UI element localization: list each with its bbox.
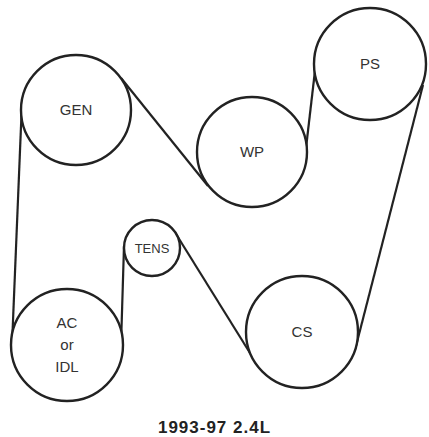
pulley-label: AC — [57, 314, 78, 331]
pulley-wp: WP — [197, 97, 307, 207]
belt-segment-cs-tens — [176, 234, 250, 353]
pulley-cs: CS — [246, 276, 358, 388]
belt-segment-gen-wp — [121, 78, 208, 186]
belt-segment-ac-gen — [12, 102, 22, 345]
pulley-label: TENS — [135, 241, 170, 256]
pulley-label: or — [60, 336, 73, 353]
pulley-ac: ACorIDL — [11, 289, 123, 401]
diagram-caption: 1993-97 2.4L — [0, 418, 429, 437]
pulley-gen: GEN — [21, 55, 131, 165]
pulley-label: WP — [240, 143, 264, 160]
pulley-ps: PS — [314, 8, 426, 120]
pulley-label: CS — [292, 323, 313, 340]
belt-segment-ps-cs — [356, 85, 423, 346]
pulley-label: PS — [360, 55, 380, 72]
pulleys: GENWPPSTENSACorIDLCS — [11, 8, 426, 401]
pulley-tens: TENS — [124, 220, 180, 276]
pulley-label: IDL — [55, 358, 78, 375]
pulley-label: GEN — [60, 101, 93, 118]
